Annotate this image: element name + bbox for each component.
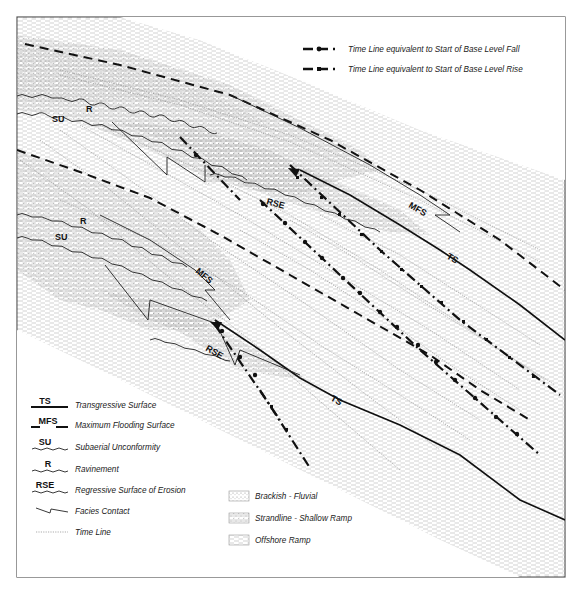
legend-tag: TS [39,396,51,406]
legend-label: Regressive Surface of Erosion [75,486,186,495]
legend-item-offshore-ramp: Offshore Ramp [229,535,311,545]
brackish-fluvial-swatch [229,491,249,501]
legend-label: Brackish - Fluvial [255,492,318,501]
legend-label: Time Line [75,528,111,537]
sequence-stratigraphy-diagram: R SU RSE MFS TS R SU RSE MFS TS Time Lin… [0,0,580,589]
legend-tag: MFS [39,416,58,426]
legend-label: Ravinement [75,465,119,474]
legend-tag: RSE [36,480,55,490]
legend-tag: R [45,459,52,469]
legend-label: Maximum Flooding Surface [75,421,175,430]
legend-label: Subaerial Unconformity [75,443,161,452]
legend-label: Time Line equivalent to Start of Base Le… [348,45,520,54]
legend-item-brackish-fluvial: Brackish - Fluvial [229,491,318,501]
offshore-ramp-swatch [229,535,249,545]
lower-r-tag: R [80,216,87,226]
strandline-swatch [229,513,249,523]
legend-label: Offshore Ramp [255,536,311,545]
upper-r-tag: R [86,104,93,114]
legend-item-strandline-shallow-ramp: Strandline - Shallow Ramp [229,513,352,523]
legend-label: Strandline - Shallow Ramp [255,514,352,523]
legend-label: Facies Contact [75,507,130,516]
circle-marker-icon [317,47,322,52]
legend-label: Time Line equivalent to Start of Base Le… [348,65,523,74]
lower-su-tag: SU [55,232,68,242]
upper-su-tag: SU [52,114,65,124]
legend-tag: SU [39,437,52,447]
square-marker-icon [317,67,321,71]
legend-label: Transgressive Surface [75,401,157,410]
